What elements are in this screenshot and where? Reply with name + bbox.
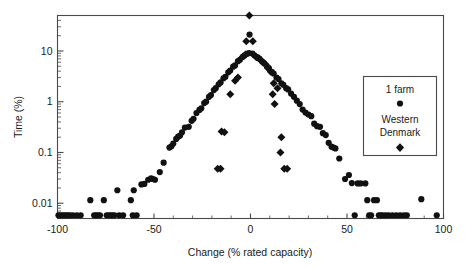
data-point-circle: [131, 187, 137, 193]
data-point-circle: [349, 180, 355, 186]
data-point-circle: [308, 113, 314, 119]
data-point-circle: [317, 124, 323, 130]
y-tick-label: 0.01: [32, 197, 53, 209]
x-tick-label: 0: [248, 223, 254, 235]
y-axis-tick-labels: 1010.10.01: [32, 45, 53, 209]
chart-page: 1010.10.01 -100-50050100 Change (% rated…: [0, 0, 466, 268]
legend-label-1-farm: 1 farm: [386, 84, 414, 95]
data-point-circle: [152, 177, 158, 183]
y-axis-title: Time (%): [12, 96, 24, 138]
x-axis-title: Change (% rated capacity): [188, 246, 312, 258]
data-point-diamond: [245, 12, 253, 20]
data-point-circle: [78, 212, 84, 218]
data-point-circle: [114, 187, 120, 193]
y-tick-label: 1: [47, 95, 53, 107]
data-point-diamond: [277, 133, 285, 141]
data-point-circle: [246, 32, 252, 38]
data-point-circle: [336, 155, 342, 161]
legend: 1 farm Western Denmark: [364, 77, 437, 156]
x-axis-tick-labels: -100-50050100: [47, 223, 452, 235]
data-point-circle: [134, 212, 140, 218]
x-tick-label: -100: [47, 223, 68, 235]
data-point-circle: [161, 160, 167, 166]
x-tick-label: 100: [435, 223, 453, 235]
x-tick-label: 50: [341, 223, 353, 235]
y-tick-label: 0.1: [38, 146, 53, 158]
data-point-diamond: [276, 148, 284, 156]
data-point-circle: [368, 212, 374, 218]
data-point-circle: [97, 212, 103, 218]
data-point-diamond: [269, 90, 277, 98]
data-point-circle: [352, 212, 358, 218]
x-tick-label: -50: [146, 223, 161, 235]
y-axis-ticks: [58, 16, 64, 219]
legend-circle-icon: [397, 100, 403, 106]
data-point-circle: [87, 197, 93, 203]
data-point-circle: [190, 116, 196, 122]
data-point-circle: [434, 212, 440, 218]
data-point-circle: [128, 197, 134, 203]
data-point-circle: [362, 180, 368, 186]
data-point-circle: [198, 105, 204, 111]
scatter-chart: 1010.10.01 -100-50050100 Change (% rated…: [0, 0, 466, 268]
data-point-circle: [101, 197, 107, 203]
data-point-circle: [323, 132, 329, 138]
data-point-diamond: [271, 100, 279, 108]
legend-label-denmark: Denmark: [380, 127, 422, 138]
data-point-circle: [297, 101, 303, 107]
data-point-diamond: [226, 90, 234, 98]
data-point-circle: [418, 196, 424, 202]
data-point-circle: [332, 145, 338, 151]
data-point-circle: [157, 169, 163, 175]
data-point-circle: [346, 172, 352, 178]
data-point-circle: [186, 124, 192, 130]
data-point-circle: [120, 212, 126, 218]
data-point-circle: [364, 197, 370, 203]
y-tick-label: 10: [41, 45, 53, 57]
data-point-circle: [374, 197, 380, 203]
data-point-diamond: [249, 37, 257, 45]
data-point-circle: [404, 212, 410, 218]
legend-label-western: Western: [381, 114, 418, 125]
